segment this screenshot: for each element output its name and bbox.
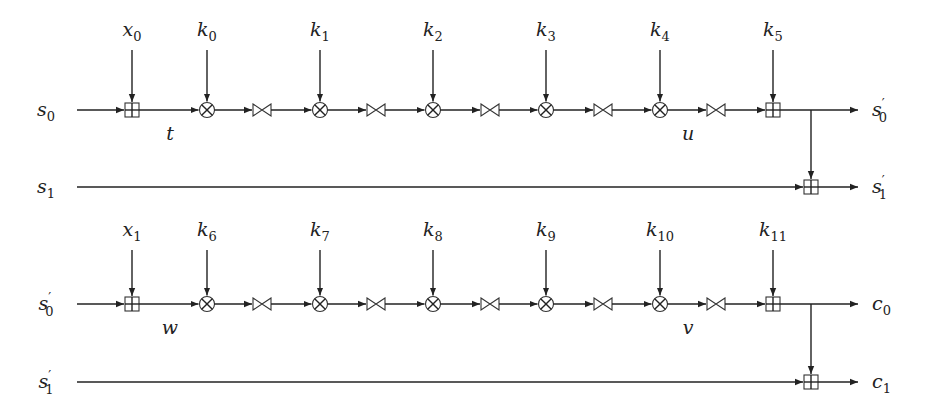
bowtie-node bbox=[481, 104, 499, 116]
bowtie-node bbox=[594, 298, 612, 310]
output-main-label: s′0 bbox=[872, 96, 887, 125]
bowtie-node bbox=[481, 298, 499, 310]
bowtie-node bbox=[707, 298, 725, 310]
output-main-label: c0 bbox=[872, 292, 891, 318]
block-1: s0s1x0k0k1k2k3k4k5s′0s′1tu bbox=[37, 18, 887, 202]
wire-label: v bbox=[683, 316, 694, 338]
input-second-label: s1 bbox=[37, 175, 55, 201]
output-second-label: c1 bbox=[872, 370, 891, 396]
input-main-label: s′0 bbox=[39, 290, 54, 319]
input-second-label: s′1 bbox=[39, 368, 54, 397]
wire-label: w bbox=[162, 316, 178, 338]
round-key-label: k6 bbox=[197, 218, 217, 244]
bowtie-node bbox=[707, 104, 725, 116]
bowtie-node bbox=[594, 104, 612, 116]
exit-key-label: k11 bbox=[759, 218, 787, 244]
block-2: s′0s′1x1k6k7k8k9k10k11c0c1wv bbox=[39, 218, 891, 397]
bowtie-node bbox=[367, 104, 385, 116]
exit-key-label: k5 bbox=[763, 18, 783, 44]
round-key-label: k1 bbox=[310, 18, 330, 44]
bowtie-node bbox=[367, 298, 385, 310]
wire-label: t bbox=[166, 122, 174, 144]
round-key-label: k7 bbox=[310, 218, 330, 244]
input-main-label: s0 bbox=[37, 98, 55, 124]
cipher-diagram: s0s1x0k0k1k2k3k4k5s′0s′1tus′0s′1x1k6k7k8… bbox=[0, 0, 942, 417]
wire-label: u bbox=[682, 122, 694, 144]
round-key-label: k0 bbox=[197, 18, 217, 44]
bowtie-node bbox=[253, 104, 271, 116]
output-second-label: s′1 bbox=[872, 173, 887, 202]
bowtie-node bbox=[253, 298, 271, 310]
entry-key-label: x1 bbox=[123, 218, 142, 244]
round-key-label: k9 bbox=[536, 218, 556, 244]
round-key-label: k2 bbox=[423, 18, 443, 44]
round-key-label: k8 bbox=[423, 218, 443, 244]
round-key-label: k4 bbox=[650, 18, 670, 44]
entry-key-label: x0 bbox=[123, 18, 142, 44]
round-key-label: k3 bbox=[536, 18, 556, 44]
round-key-label: k10 bbox=[646, 218, 674, 244]
